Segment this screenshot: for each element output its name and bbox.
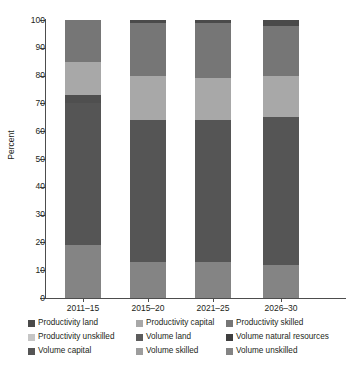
y-axis-tick-label: 90 <box>0 43 45 52</box>
bar-2026–30 <box>263 20 299 298</box>
x-axis-label-2011–15: 2011–15 <box>48 303 118 313</box>
y-axis-tick-label: 20 <box>0 238 45 247</box>
legend-swatch-icon-volume-natural-resources <box>226 334 233 341</box>
legend-swatch-icon-volume-capital <box>28 348 35 355</box>
bar-segment-volume-unskilled <box>263 265 299 298</box>
y-axis-tick-label-text: 10 <box>19 266 45 275</box>
y-axis-title: Percent <box>6 115 16 175</box>
x-axis-line <box>45 298 346 299</box>
legend-label-productivity-unskilled: Productivity unskilled <box>38 332 114 342</box>
bar-2011–15 <box>65 20 101 298</box>
legend-label-volume-unskilled: Volume unskilled <box>236 346 297 356</box>
y-axis-tick-label-text: 0 <box>19 294 45 303</box>
legend-label-volume-natural-resources: Volume natural resources <box>236 332 329 342</box>
bar-segment-productivity-capital <box>195 78 231 120</box>
bar-segment-volume-capital <box>195 120 231 262</box>
legend-item-volume-unskilled[interactable]: Volume unskilled <box>226 346 350 356</box>
bar-2021–25 <box>195 20 231 298</box>
y-axis-tick-label: 50 <box>0 155 45 164</box>
chart-legend: Productivity landProductivity capitalPro… <box>28 318 350 360</box>
bar-segment-productivity-capital <box>263 76 299 118</box>
x-axis-tick <box>213 298 214 302</box>
legend-item-productivity-skilled[interactable]: Productivity skilled <box>226 318 350 328</box>
y-axis-tick-label-text: 70 <box>19 99 45 108</box>
bar-segment-productivity-land <box>130 20 166 23</box>
legend-row: Productivity landProductivity capitalPro… <box>28 318 350 332</box>
y-axis-tick-label: 0 <box>0 294 45 303</box>
legend-label-productivity-skilled: Productivity skilled <box>236 318 303 328</box>
x-axis-label-2015–20: 2015–20 <box>113 303 183 313</box>
legend-label-productivity-land: Productivity land <box>38 318 98 328</box>
bar-segment-productivity-land <box>195 20 231 23</box>
legend-row: Productivity unskilledVolume landVolume … <box>28 332 350 346</box>
legend-swatch-icon-productivity-unskilled <box>28 334 35 341</box>
bar-segment-productivity-skilled <box>263 26 299 76</box>
bar-segment-volume-unskilled <box>65 245 101 298</box>
bar-2015–20 <box>130 20 166 298</box>
bar-segment-productivity-land <box>263 20 299 26</box>
y-axis-tick-label-text: 30 <box>19 210 45 219</box>
legend-swatch-icon-volume-unskilled <box>226 348 233 355</box>
legend-row: Volume capitalVolume skilledVolume unski… <box>28 346 350 360</box>
y-axis-tick-label: 100 <box>0 16 45 25</box>
bar-segment-productivity-skilled <box>195 23 231 79</box>
legend-item-productivity-unskilled[interactable]: Productivity unskilled <box>28 332 136 342</box>
x-axis-tick <box>281 298 282 302</box>
legend-item-productivity-land[interactable]: Productivity land <box>28 318 136 328</box>
x-axis-label-2021–25: 2021–25 <box>178 303 248 313</box>
bar-segment-volume-land <box>65 95 101 103</box>
x-axis-label-2026–30: 2026–30 <box>246 303 316 313</box>
x-axis-tick <box>148 298 149 302</box>
y-axis-tick-label: 30 <box>0 210 45 219</box>
y-axis-tick-label-text: 90 <box>19 43 45 52</box>
legend-label-volume-skilled: Volume skilled <box>146 346 198 356</box>
stacked-bar-chart: Percent 0102030405060708090100 2011–1520… <box>0 0 355 368</box>
y-axis-tick-label: 40 <box>0 182 45 191</box>
y-axis-tick-label-text: 20 <box>19 238 45 247</box>
legend-item-volume-land[interactable]: Volume land <box>136 332 226 342</box>
bar-segment-volume-unskilled <box>130 262 166 298</box>
legend-swatch-icon-productivity-skilled <box>226 320 233 327</box>
legend-label-volume-land: Volume land <box>146 332 191 342</box>
bar-segment-volume-capital <box>130 120 166 262</box>
bar-segment-volume-unskilled <box>195 262 231 298</box>
legend-item-productivity-capital[interactable]: Productivity capital <box>136 318 226 328</box>
bar-segment-productivity-skilled <box>65 20 101 62</box>
x-axis-tick <box>83 298 84 302</box>
bar-segment-volume-capital <box>65 103 101 245</box>
y-axis-tick-label: 60 <box>0 127 45 136</box>
y-axis-tick-label-text: 60 <box>19 127 45 136</box>
legend-item-volume-natural-resources[interactable]: Volume natural resources <box>226 332 350 342</box>
y-axis-tick-label-text: 50 <box>19 155 45 164</box>
y-axis-tick-label-text: 40 <box>19 182 45 191</box>
bar-segment-volume-capital <box>263 117 299 264</box>
y-axis-tick-label-text: 100 <box>19 16 45 25</box>
legend-item-volume-capital[interactable]: Volume capital <box>28 346 136 356</box>
legend-label-volume-capital: Volume capital <box>38 346 91 356</box>
legend-item-volume-skilled[interactable]: Volume skilled <box>136 346 226 356</box>
legend-swatch-icon-volume-skilled <box>136 348 143 355</box>
y-axis-line <box>45 19 46 299</box>
bar-segment-productivity-capital <box>130 76 166 120</box>
y-axis-tick-label: 10 <box>0 266 45 275</box>
legend-swatch-icon-productivity-land <box>28 320 35 327</box>
y-axis-tick-label: 70 <box>0 99 45 108</box>
y-axis-tick-label-text: 80 <box>19 71 45 80</box>
y-axis-tick-label: 80 <box>0 71 45 80</box>
legend-label-productivity-capital: Productivity capital <box>146 318 214 328</box>
legend-swatch-icon-volume-land <box>136 334 143 341</box>
bar-segment-productivity-capital <box>65 62 101 95</box>
bar-segment-productivity-skilled <box>130 23 166 76</box>
legend-swatch-icon-productivity-capital <box>136 320 143 327</box>
